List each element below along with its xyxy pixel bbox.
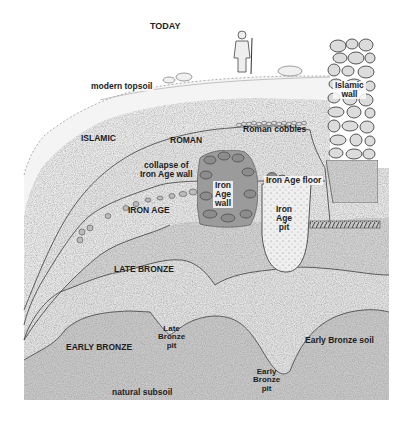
hatched-floor-remnant [310, 221, 380, 228]
label-iron-age-wall-line3: wall [215, 199, 231, 208]
label-iron-age-pit: Iron Age pit [276, 205, 292, 232]
label-iron-age-pit-line3: pit [276, 223, 292, 232]
label-islamic-wall-line2: wall [335, 90, 364, 99]
label-late-bronze-pit: Late Bronze pit [158, 325, 185, 350]
label-natural-subsoil: natural subsoil [112, 388, 172, 397]
label-iron-age: IRON AGE [128, 206, 170, 215]
label-today: TODAY [150, 22, 181, 31]
label-late-bronze-pit-line3: pit [158, 342, 185, 350]
label-islamic-wall: Islamic wall [333, 81, 366, 99]
stratigraphic-section-diagram [0, 0, 411, 446]
person-figure [234, 31, 252, 74]
label-early-bronze-pit-line3: pit [253, 385, 280, 393]
label-collapse-line2: Iron Age wall [140, 170, 193, 179]
islamic-wall [328, 39, 375, 159]
label-early-bronze-pit: Early Bronze pit [253, 368, 280, 393]
bottom-margin [0, 402, 411, 446]
label-modern-topsoil: modern topsoil [89, 82, 154, 91]
label-iron-age-floor: Iron Age floor [264, 176, 323, 185]
label-late-bronze: LATE BRONZE [114, 265, 174, 274]
label-early-bronze: EARLY BRONZE [66, 343, 132, 352]
islamic-wall-foundation [326, 160, 378, 203]
layer-natural-subsoil [24, 310, 389, 400]
label-collapse-iron-age-wall: collapse of Iron Age wall [140, 161, 193, 179]
label-iron-age-wall: Iron Age wall [213, 181, 233, 208]
label-roman: ROMAN [170, 136, 202, 145]
label-early-bronze-soil: Early Bronze soil [305, 336, 374, 345]
label-islamic: ISLAMIC [81, 134, 116, 143]
label-roman-cobbles: Roman cobbles [243, 125, 306, 134]
